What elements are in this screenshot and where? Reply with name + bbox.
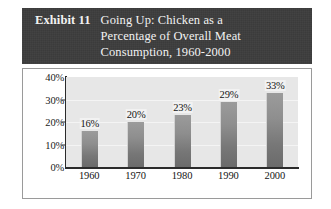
x-tick-label-1980: 1980 [159,170,205,181]
y-tick-label-0: 0% [50,162,64,173]
bar-slot-1980: 23% [159,77,205,167]
exhibit-header: Exhibit 11 Going Up: Chicken as a Percen… [22,8,312,64]
header-content: Exhibit 11 Going Up: Chicken as a Percen… [22,13,312,60]
bar-value-1970: 20% [126,109,147,120]
bar-series: 16% 20% 23% 29 [66,77,298,167]
exhibit-title: Going Up: Chicken as a Percentage of Ove… [101,13,312,60]
x-tick-label-2000: 2000 [252,170,298,181]
x-tick-label-1960: 1960 [66,170,112,181]
bar-slot-1960: 16% [66,77,112,167]
x-axis-labels: 1960 1970 1980 1990 2000 [66,170,298,181]
bar-value-1990: 29% [219,89,240,100]
bar-1980[interactable]: 23% [174,115,191,167]
y-tick-label-40: 40% [45,72,64,83]
bar-value-2000: 33% [265,80,286,91]
bar-value-1980: 23% [172,102,193,113]
exhibit-figure: Exhibit 11 Going Up: Chicken as a Percen… [0,0,331,209]
bar-slot-1970: 20% [112,77,158,167]
x-tick-label-1990: 1990 [205,170,251,181]
bar-slot-2000: 33% [252,77,298,167]
x-axis-line [65,167,299,169]
y-axis-labels: 40% 30% 20% 10% 0% [29,77,64,167]
bar-1960[interactable]: 16% [81,131,98,167]
plot-wrapper: 40% 30% 20% 10% 0% 1 [23,69,311,198]
title-line-1: Going Up: Chicken as a [101,13,312,29]
title-line-2: Percentage of Overall Meat [101,29,312,45]
x-tick-label-1970: 1970 [112,170,158,181]
bar-1990[interactable]: 29% [220,102,237,167]
bar-value-1960: 16% [79,118,100,129]
plot-area: 16% 20% 23% 29 [66,77,298,167]
exhibit-number: Exhibit 11 [35,13,101,29]
title-line-3: Consumption, 1960-2000 [101,45,312,61]
chart-panel: 40% 30% 20% 10% 0% 1 [22,68,312,199]
bar-2000[interactable]: 33% [266,93,283,167]
bar-slot-1990: 29% [205,77,251,167]
bar-1970[interactable]: 20% [127,122,144,167]
